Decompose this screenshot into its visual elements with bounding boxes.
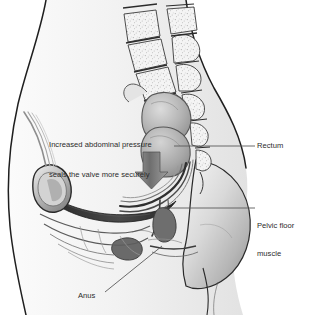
pressure-callout-text: Increased abdominal pressure seals the v… <box>49 120 152 200</box>
label-rectum: Rectum <box>257 141 283 150</box>
pelvic-anatomy-figure: Increased abdominal pressure seals the v… <box>0 0 313 315</box>
label-pelvic-floor-line-1: Pelvic floor <box>257 221 294 230</box>
callout-line-2: seals the valve more securely <box>49 170 152 180</box>
label-anus: Anus <box>78 291 95 300</box>
label-pelvic-floor-muscle: Pelvic floor muscle <box>257 202 294 277</box>
label-pelvic-floor-line-2: muscle <box>257 249 294 258</box>
callout-line-1: Increased abdominal pressure <box>49 140 152 150</box>
